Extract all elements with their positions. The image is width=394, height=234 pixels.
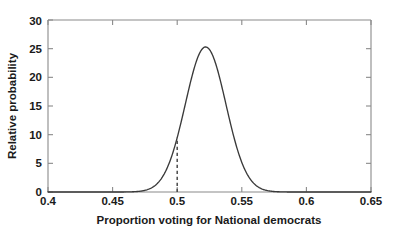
y-tick-label: 0 xyxy=(36,186,42,198)
y-tick-label: 30 xyxy=(29,15,42,27)
plot-background xyxy=(0,0,394,234)
x-tick-label: 0.65 xyxy=(360,195,383,207)
x-tick-label: 0.5 xyxy=(169,195,186,207)
density-plot: 0.4 0.45 0.5 0.55 0.6 0.65 0 5 10 15 20 … xyxy=(0,0,394,234)
y-tick-label: 25 xyxy=(29,43,42,55)
x-axis-title: Proportion voting for National democrats xyxy=(97,214,322,226)
y-tick-label: 5 xyxy=(36,157,43,169)
y-tick-label: 20 xyxy=(29,71,42,83)
y-tick-label: 15 xyxy=(29,100,42,112)
y-tick-label: 10 xyxy=(29,129,42,141)
y-axis-title: Relative probability xyxy=(6,52,18,159)
x-tick-label: 0.6 xyxy=(298,195,314,207)
x-tick-label: 0.45 xyxy=(101,195,124,207)
chart-figure: 0.4 0.45 0.5 0.55 0.6 0.65 0 5 10 15 20 … xyxy=(0,0,394,234)
x-tick-label: 0.55 xyxy=(231,195,254,207)
x-tick-label: 0.4 xyxy=(40,195,57,207)
